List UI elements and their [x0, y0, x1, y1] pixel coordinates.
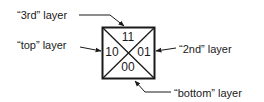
bottom-layer-leader-arrow — [135, 81, 171, 92]
second-layer-leader-arrow — [156, 48, 176, 51]
cell-bottom-value: 00 — [118, 61, 138, 73]
top-layer-label: “top” layer — [17, 39, 67, 51]
bottom-layer-label: “bottom” layer — [174, 87, 242, 99]
cell-right-value: 01 — [134, 46, 154, 58]
second-layer-label: “2nd” layer — [179, 43, 232, 55]
cell-left-value: 10 — [102, 46, 122, 58]
third-layer-leader-arrow — [79, 15, 124, 26]
layer-diagram: 11 10 01 00 “3rd” layer “top” layer “2nd… — [0, 0, 264, 102]
third-layer-label: “3rd” layer — [17, 9, 67, 21]
cell-top-value: 11 — [118, 31, 138, 43]
top-layer-leader-arrow — [80, 47, 101, 51]
